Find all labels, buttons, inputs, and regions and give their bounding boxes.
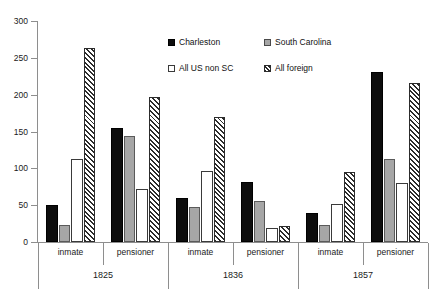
legend-swatch-foreign-icon <box>264 65 271 72</box>
bar-us-1857-inmate <box>331 204 343 242</box>
legend-swatch-charleston-icon <box>168 39 175 46</box>
bar-charleston-1836-pensioner <box>241 182 253 242</box>
legend-entry-us[interactable]: All US non SC <box>168 64 233 73</box>
y-axis-tick <box>31 205 37 206</box>
bar-foreign-1825-inmate <box>84 48 96 242</box>
y-axis-tick <box>31 21 37 22</box>
y-axis-tick <box>31 95 37 96</box>
legend-label: South Carolina <box>275 38 331 47</box>
bar-us-1836-pensioner <box>266 228 278 242</box>
y-axis-tick-label: 300 <box>0 17 28 26</box>
x-axis-subgroup-divider <box>363 243 364 265</box>
y-axis-tick-label: 50 <box>0 201 28 210</box>
x-axis-group-label-1825: 1825 <box>38 271 168 280</box>
bar-us-1836-inmate <box>201 171 213 242</box>
x-axis-subgroup-divider <box>38 243 39 265</box>
bar-foreign-1857-pensioner <box>409 83 421 242</box>
bar-sc-1825-pensioner <box>124 136 136 242</box>
bar-charleston-1825-pensioner <box>111 128 123 242</box>
bar-sc-1857-pensioner <box>384 159 396 242</box>
x-axis-group-divider <box>428 265 429 289</box>
y-axis-tick-label: 250 <box>0 54 28 63</box>
x-axis-subgroup-divider <box>168 243 169 265</box>
x-axis-subgroup-divider <box>233 243 234 265</box>
x-axis-group-divider <box>168 265 169 289</box>
legend-entry-foreign[interactable]: All foreign <box>264 64 313 73</box>
legend-label: Charleston <box>179 38 220 47</box>
legend-label: All foreign <box>275 64 313 73</box>
legend-swatch-sc-icon <box>264 39 271 46</box>
x-axis-subgroup-label: inmate <box>38 248 103 257</box>
x-axis-subgroup-divider <box>103 243 104 265</box>
bar-foreign-1836-inmate <box>214 117 226 242</box>
bar-charleston-1836-inmate <box>176 198 188 242</box>
legend-entry-sc[interactable]: South Carolina <box>264 38 331 47</box>
bar-foreign-1836-pensioner <box>279 226 291 242</box>
x-axis-subgroup-divider <box>428 243 429 265</box>
bar-sc-1857-inmate <box>319 225 331 242</box>
chart-legend: CharlestonSouth CarolinaAll US non SCAll… <box>168 38 368 82</box>
bar-foreign-1825-pensioner <box>149 97 161 242</box>
bar-charleston-1857-inmate <box>306 213 318 242</box>
bar-foreign-1857-inmate <box>344 172 356 242</box>
y-axis-tick-label: 200 <box>0 91 28 100</box>
legend-entry-charleston[interactable]: Charleston <box>168 38 220 47</box>
y-axis-tick <box>31 132 37 133</box>
x-axis-group-divider <box>298 265 299 289</box>
legend-label: All US non SC <box>179 64 233 73</box>
bar-us-1825-inmate <box>71 159 83 242</box>
legend-swatch-us-icon <box>168 65 175 72</box>
x-axis-subgroup-divider <box>298 243 299 265</box>
bar-us-1825-pensioner <box>136 189 148 242</box>
x-axis-group-label-1836: 1836 <box>168 271 298 280</box>
x-axis-subgroup-label: pensioner <box>233 248 298 257</box>
x-axis-subgroup-label: pensioner <box>363 248 428 257</box>
x-axis-subgroup-label: inmate <box>298 248 363 257</box>
bar-us-1857-pensioner <box>396 183 408 242</box>
y-axis-tick-label: 100 <box>0 164 28 173</box>
x-axis-subgroup-label: pensioner <box>103 248 168 257</box>
y-axis-tick <box>31 168 37 169</box>
bar-sc-1836-pensioner <box>254 201 266 242</box>
x-axis-group-label-1857: 1857 <box>298 271 428 280</box>
x-axis-group-tier: 182518361857 <box>37 265 428 289</box>
bar-charleston-1825-inmate <box>46 205 58 242</box>
x-axis-subgroup-label: inmate <box>168 248 233 257</box>
x-axis-group-divider <box>38 265 39 289</box>
y-axis-tick-label: 150 <box>0 128 28 137</box>
bar-chart: 050100150200250300 inmatepensionerinmate… <box>0 0 438 297</box>
y-axis-tick-label: 0 <box>0 238 28 247</box>
bar-sc-1825-inmate <box>59 225 71 242</box>
bar-sc-1836-inmate <box>189 207 201 242</box>
y-axis-tick <box>31 58 37 59</box>
bar-charleston-1857-pensioner <box>371 72 383 242</box>
x-axis-subgroup-tier: inmatepensionerinmatepensionerinmatepens… <box>37 243 428 265</box>
